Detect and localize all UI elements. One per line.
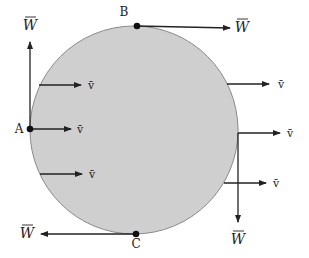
point-label: B [120,5,129,19]
v-arrow-right-mid: v̄ [238,127,294,140]
v-vector-label: v̄ [87,79,95,92]
point-label: A [14,122,24,136]
point-dot [27,126,34,133]
v-vector-label: v̄ [272,177,280,190]
w-vector-label: W [20,225,36,241]
v-vector-label: v̄ [76,123,84,136]
v-vector-label: v̄ [88,168,96,181]
w-vector-label: W [23,17,39,33]
point-c: C [131,231,140,251]
w-vector-label: W [231,231,247,247]
v-vector-label: v̄ [286,127,294,140]
v-vector-label: v̄ [277,78,285,91]
point-label: C [131,237,140,251]
w-vector-label: W [235,19,251,35]
point-dot [134,23,141,30]
v-arrow-right-bottom: v̄ [224,177,280,190]
rolling-disk-diagram: WWWWv̄v̄v̄v̄v̄v̄ ABC [0,0,309,258]
disk [30,26,238,234]
v-arrow-right-top: v̄ [227,78,285,91]
